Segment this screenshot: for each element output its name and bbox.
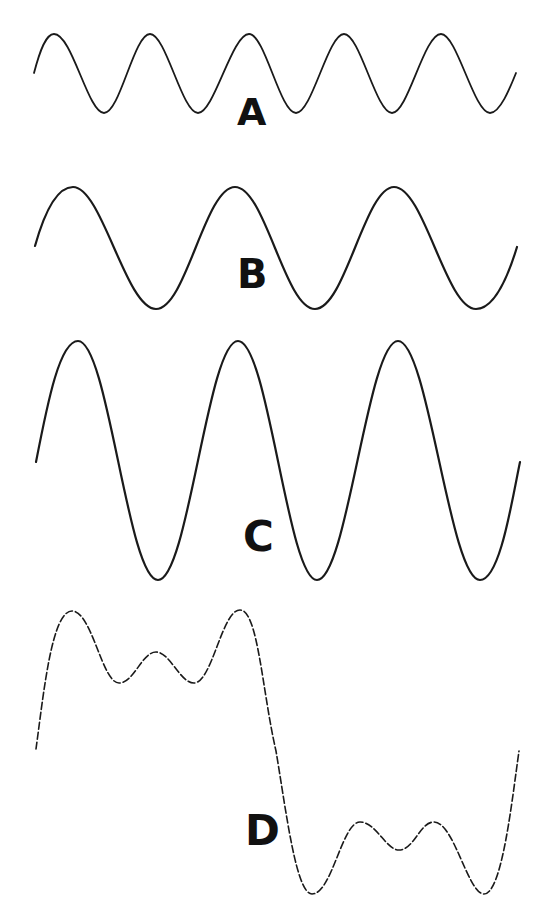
wave-label-c: C [243,516,274,558]
sine-wave-c [36,341,520,580]
sine-wave-a [34,34,516,113]
wave-label-b: B [237,254,268,294]
sine-wave-b [35,187,517,309]
wave-label-a: A [237,93,266,131]
wave-label-d: D [245,810,280,852]
waveform-diagram [0,0,548,910]
